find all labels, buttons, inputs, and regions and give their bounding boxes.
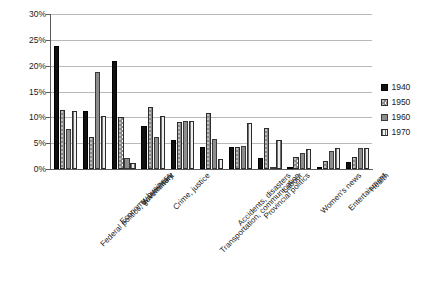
bar-1950 (89, 137, 94, 169)
legend-label: 1940 (391, 83, 410, 92)
bar-groups (51, 14, 372, 169)
bar-1960 (95, 72, 100, 169)
bar-group (109, 14, 138, 169)
bar-1970 (306, 149, 311, 169)
bar-1970 (101, 116, 106, 169)
bar-group (226, 14, 255, 169)
bar-1950 (352, 157, 357, 169)
legend-swatch-icon (381, 84, 388, 91)
x-axis-label: Crime, justice (171, 171, 212, 212)
bar-1950 (60, 110, 65, 169)
bar-group (314, 14, 343, 169)
legend-item[interactable]: 1960 (381, 110, 427, 125)
bar-1960 (212, 139, 217, 169)
bar-1960 (329, 151, 334, 169)
bar-1940 (200, 147, 205, 169)
bar-1950 (177, 122, 182, 169)
bar-1940 (54, 46, 59, 169)
legend-label: 1950 (391, 98, 410, 107)
y-axis-tick-label: 25% (6, 36, 46, 45)
y-axis-tick-label: 30% (6, 10, 46, 19)
bar-1970 (276, 140, 281, 169)
legend-label: 1960 (391, 113, 410, 122)
bar-1970 (72, 111, 77, 169)
bar-1960 (270, 167, 275, 169)
bar-1960 (124, 158, 129, 169)
bar-1940 (287, 167, 292, 169)
bar-1950 (148, 107, 153, 169)
bar-1960 (66, 129, 71, 169)
bar-group (80, 14, 109, 169)
x-axis-label: Health (368, 171, 391, 194)
bar-group (139, 14, 168, 169)
bar-group (168, 14, 197, 169)
bar-group (51, 14, 80, 169)
bar-1940 (346, 162, 351, 169)
chart-legend: 1940195019601970 (381, 80, 427, 140)
legend-swatch-icon (381, 129, 388, 136)
bar-1960 (241, 146, 246, 169)
bar-1960 (358, 148, 363, 169)
bar-1940 (317, 167, 322, 169)
bar-1960 (300, 153, 305, 169)
bar-group (343, 14, 372, 169)
y-axis-tick-label: 15% (6, 88, 46, 97)
legend-swatch-icon (381, 114, 388, 121)
bar-group (285, 14, 314, 169)
bar-1950 (264, 128, 269, 169)
bar-1960 (154, 137, 159, 169)
bar-1970 (189, 121, 194, 169)
bar-1950 (206, 113, 211, 169)
bar-1950 (235, 147, 240, 169)
bar-1970 (160, 116, 165, 169)
bar-chart: 30%25%20%15%10%5%0% Federal politics, go… (0, 0, 427, 294)
bar-1970 (335, 148, 340, 169)
bar-1940 (229, 147, 234, 169)
bar-1950 (118, 117, 123, 169)
bar-1940 (83, 111, 88, 169)
bar-group (255, 14, 284, 169)
legend-item[interactable]: 1940 (381, 80, 427, 95)
bar-1940 (141, 126, 146, 169)
bar-1970 (218, 159, 223, 169)
bar-1970 (247, 123, 252, 170)
legend-swatch-icon (381, 99, 388, 106)
y-axis-tick-label: 5% (6, 139, 46, 148)
bar-1940 (258, 158, 263, 169)
legend-item[interactable]: 1950 (381, 95, 427, 110)
bar-1950 (293, 157, 298, 169)
bar-1960 (183, 121, 188, 169)
bar-1970 (364, 148, 369, 169)
y-axis-tick-label: 20% (6, 62, 46, 71)
bar-1940 (112, 61, 117, 170)
y-axis-tick-label: 0% (6, 165, 46, 174)
bar-group (197, 14, 226, 169)
x-axis-label: War/military (140, 171, 176, 207)
legend-label: 1970 (391, 128, 410, 137)
bar-1940 (171, 140, 176, 169)
bar-1950 (323, 161, 328, 169)
bar-1970 (130, 163, 135, 169)
y-axis-tick-label: 10% (6, 113, 46, 122)
legend-item[interactable]: 1970 (381, 125, 427, 140)
x-axis-labels: Federal politics, governmentEconomy, bus… (51, 171, 372, 291)
